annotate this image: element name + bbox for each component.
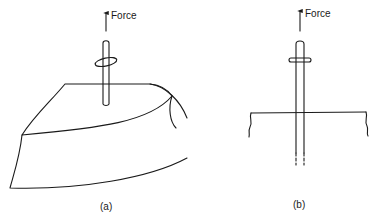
panel-a [10, 13, 187, 188]
caption-a: (a) [100, 201, 112, 212]
figure-diagram [0, 0, 374, 217]
rod-b-hidden [296, 153, 304, 165]
force-label-a: Force [111, 10, 137, 21]
block-top-face [22, 84, 172, 135]
caption-b: (b) [293, 199, 305, 210]
rod-a [103, 41, 109, 106]
block-inner-curve [170, 96, 176, 128]
surface-right-break [366, 112, 368, 136]
collar-b [289, 58, 311, 62]
force-label-b: Force [305, 8, 331, 19]
collar-a [94, 56, 117, 68]
surface-line [251, 112, 366, 113]
block-front-face [10, 135, 187, 188]
surface-left-break [249, 113, 251, 137]
panel-b [249, 11, 368, 165]
block-top-rim [150, 84, 187, 118]
